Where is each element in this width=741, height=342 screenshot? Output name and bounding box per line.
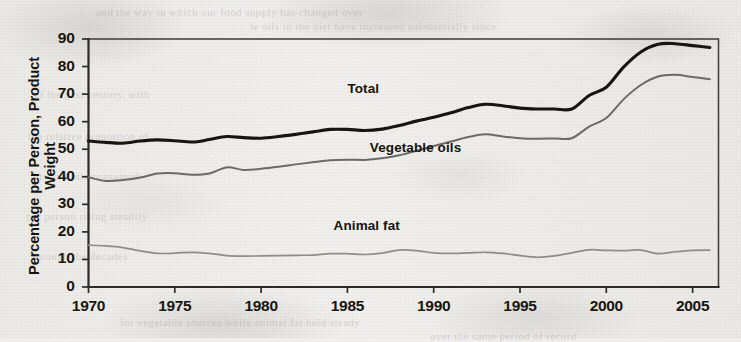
series-label-vegetable-oils: Vegetable oils (370, 140, 461, 155)
x-tick-label-2000: 2000 (571, 297, 641, 315)
x-tick-label-1980: 1980 (226, 297, 296, 315)
x-tick-label-1995: 1995 (485, 297, 555, 315)
y-tick-label-30: 30 (41, 194, 75, 212)
y-tick-label-90: 90 (41, 29, 75, 47)
series-label-total: Total (347, 81, 379, 96)
x-tick-label-1975: 1975 (140, 297, 210, 315)
y-tick-label-80: 80 (41, 57, 75, 75)
y-tick-label-70: 70 (41, 84, 75, 102)
y-tick-label-50: 50 (41, 139, 75, 157)
x-tick-label-1990: 1990 (399, 297, 469, 315)
series-label-animal-fat: Animal fat (334, 218, 400, 233)
y-tick-label-10: 10 (41, 249, 75, 267)
x-tick-label-1985: 1985 (312, 297, 382, 315)
y-tick-label-60: 60 (41, 112, 75, 130)
series-line-total (89, 43, 710, 143)
series-line-vegetable-oils (89, 75, 710, 181)
series-line-animal-fat (89, 245, 710, 257)
y-tick-label-40: 40 (41, 167, 75, 185)
x-tick-label-1970: 1970 (54, 297, 124, 315)
x-tick-label-2005: 2005 (658, 297, 728, 315)
y-tick-label-20: 20 (41, 222, 75, 240)
axis-tick-marks (82, 39, 693, 293)
y-tick-label-0: 0 (41, 277, 75, 295)
